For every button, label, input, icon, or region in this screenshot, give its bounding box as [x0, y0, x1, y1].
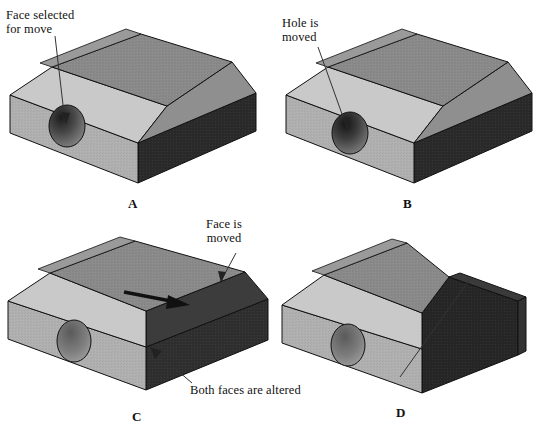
face-selected-note: Face selectedfor move — [6, 8, 74, 36]
hole-moved-note: Hole ismoved — [282, 16, 318, 44]
panel-c: Face ismoved C — [0, 217, 273, 434]
panel-letter-a: A — [128, 196, 137, 212]
face-moved-note: Face ismoved — [180, 217, 268, 245]
panel-letter-c: C — [132, 409, 141, 425]
panel-letter-d: D — [396, 405, 405, 421]
solid-model-d — [274, 217, 547, 434]
panel-d: Angled faceis made coplanarwith the vert… — [274, 217, 547, 434]
solid-model-c — [0, 217, 273, 434]
panel-b: Hole ismoved B — [274, 0, 547, 217]
panel-letter-b: B — [403, 196, 412, 212]
panel-a: Face selectedfor move A — [0, 0, 273, 217]
